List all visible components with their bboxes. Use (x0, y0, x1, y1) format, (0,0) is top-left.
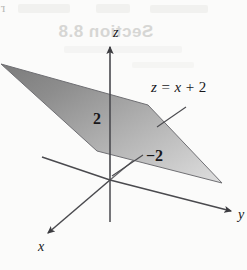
equation-plus: + (186, 79, 195, 95)
y-axis-negative (42, 157, 110, 180)
axis-label-x: x (38, 240, 44, 254)
y-axis-positive (110, 180, 231, 211)
x-intercept-label: −2 (146, 148, 163, 164)
axis-label-z: z (113, 26, 118, 40)
equation-label: z = x + 2 (151, 80, 207, 95)
z-intercept-label: 2 (93, 111, 101, 127)
equation-equals: = (161, 79, 170, 95)
figure-container: r Section 8.8 (0, 0, 247, 270)
equation-leader-line (157, 107, 186, 127)
x-axis-positive (48, 180, 110, 233)
equation-lhs: z (151, 79, 157, 95)
equation-rhs-variable: x (174, 79, 181, 95)
figure-drawing (0, 0, 247, 270)
equation-rhs-constant: 2 (199, 79, 207, 95)
axis-label-y: y (238, 208, 244, 222)
